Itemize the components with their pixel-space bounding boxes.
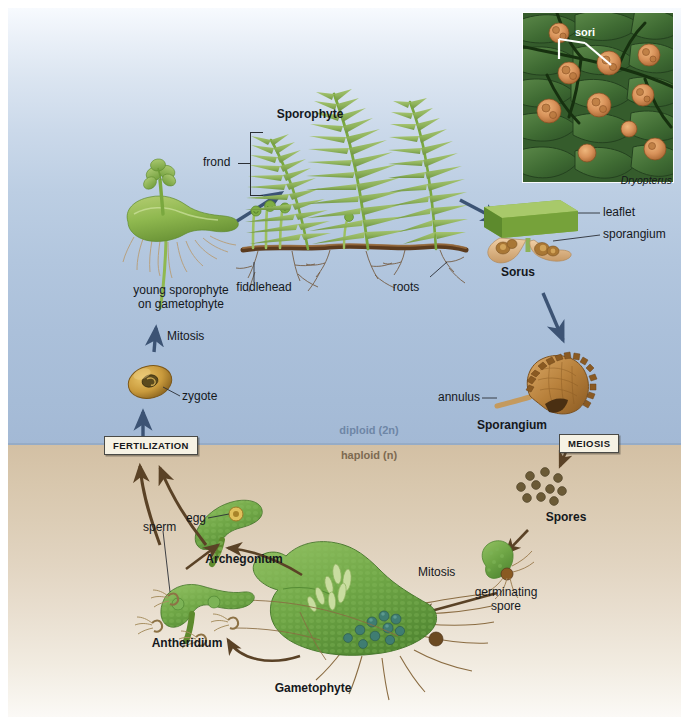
sori-photo-graphic [523,13,673,182]
label-young-sporophyte-line1: young sporophyte [133,284,228,298]
arrow-mitosis-to-young-sporophyte [154,328,156,352]
sporangium-icon [497,352,597,414]
zygote-icon [125,361,175,403]
meiosis-box[interactable]: MEIOSIS [559,434,619,453]
arrow-gametophyte-to-antheridium [228,640,300,661]
sperm-leader [163,531,170,592]
label-mitosis-lower: Mitosis [418,566,455,580]
photo-inset-dryopterus: sori [523,13,673,182]
label-archegonium: Archegonium [205,553,282,567]
label-germinating-spore-line2: spore [491,600,521,614]
label-fiddlehead: fiddlehead [236,281,291,295]
fertilization-box[interactable]: FERTILIZATION [104,436,198,455]
arrow-sorus-to-sporangium [543,293,563,340]
label-mitosis-upper: Mitosis [167,330,204,344]
phase-label-haploid: haploid (n) [341,449,397,461]
label-antheridium: Antheridium [152,637,223,651]
frond-bracket [250,132,263,196]
label-spores: Spores [546,511,587,525]
label-roots: roots [393,281,420,295]
label-sporophyte: Sporophyte [277,108,344,122]
spore-cluster-icon [517,468,567,506]
phase-label-diploid: diploid (2n) [339,424,398,436]
fern-life-cycle-figure: sori Dryopterus Sporophyte frond fiddleh… [0,0,689,722]
label-sorus: Sorus [501,266,535,280]
sorus-icon [484,200,578,263]
photo-caption-dryopterus: Dryopterus [621,174,672,186]
fern-frond-icon [236,89,468,292]
sori-photo-label: sori [575,26,595,39]
label-gametophyte: Gametophyte [275,682,352,696]
label-egg: egg [186,512,206,526]
frond-leader [238,163,251,164]
label-germinating-spore-line1: germinating [475,586,538,600]
sporangium-leader [553,235,600,241]
label-sperm: sperm [143,521,176,535]
label-sporangium-callout: sporangium [603,228,666,242]
label-leaflet: leaflet [603,206,635,220]
label-young-sporophyte-line2: on gametophyte [138,298,224,312]
roots-leader [430,262,447,277]
label-frond: frond [203,156,230,170]
label-zygote: zygote [182,390,217,404]
label-sporangium: Sporangium [477,419,547,433]
label-annulus: annulus [438,391,480,405]
